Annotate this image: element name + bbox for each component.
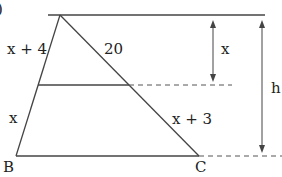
label-lower-left-side: x (9, 109, 18, 127)
trapezoid-triangle-diagram: ) x + 4 x 20 x + 3 x h B C (0, 0, 282, 177)
corner-label: ) (0, 0, 3, 18)
label-small-height: x (221, 40, 230, 58)
label-vertex-c: C (195, 158, 206, 176)
label-lower-right-side: x + 3 (172, 110, 212, 128)
label-upper-left-side: x + 4 (7, 40, 47, 58)
label-vertex-b: B (3, 158, 14, 176)
label-upper-right-side: 20 (104, 40, 123, 58)
label-total-height: h (271, 79, 281, 97)
